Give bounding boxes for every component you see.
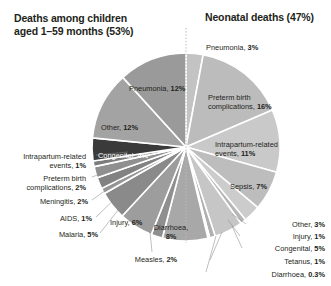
label-preterm-child: Preterm birth complications, 2% xyxy=(4,175,86,192)
label-other-neonatal: Other, 3% xyxy=(235,221,325,230)
label-other-child: Other, 12% xyxy=(101,124,138,133)
label-injury-neonatal: Injury, 1% xyxy=(235,233,325,242)
leader-line xyxy=(206,236,216,272)
label-aids-child: AIDS, 1% xyxy=(4,215,92,224)
label-meningitis-child: Meningitis, 2% xyxy=(4,198,88,207)
label-preterm-neonatal: Preterm birth complications, 16% xyxy=(208,94,292,111)
label-pneumonia-neonatal: Pneumonia, 3% xyxy=(206,44,258,53)
label-diarrhoea-child: Diarrhoea, 8% xyxy=(146,224,196,241)
label-pneumonia-child: Pneumonia, 12% xyxy=(129,85,185,94)
label-congenital-child: Congenital, 4% xyxy=(98,152,148,161)
label-tetanus-neonatal: Tetanus, 1% xyxy=(215,258,325,267)
label-intrapartum-child: Intrapartum-related events, 1% xyxy=(2,153,86,170)
label-congenital-neonatal: Congenital, 5% xyxy=(225,245,325,254)
label-malaria-child: Malaria, 5% xyxy=(4,231,98,240)
label-diarrhoea-neonatal: Diarrhoea, 0.3% xyxy=(205,271,325,280)
label-measles-child: Measles, 2% xyxy=(120,256,192,265)
pie-chart-figure: Deaths among children aged 1–59 months (… xyxy=(0,0,331,286)
label-sepsis-neonatal: Sepsis, 7% xyxy=(230,183,267,192)
label-intrapartum-neonatal: Intrapartum-related events, 11% xyxy=(215,141,307,158)
label-injury-child: Injury, 6% xyxy=(110,219,142,228)
